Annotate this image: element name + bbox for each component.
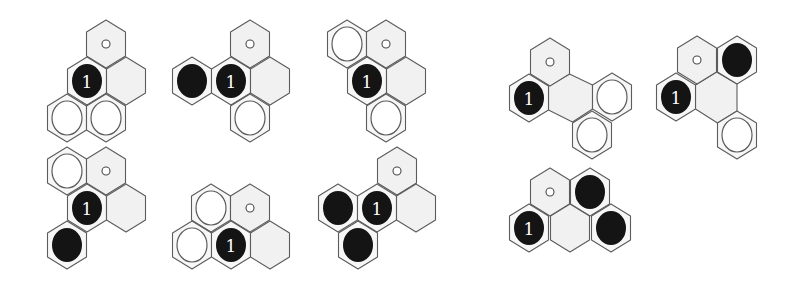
hex-pattern-figure: 111111111 — [0, 0, 801, 284]
stone-number-label: 1 — [362, 72, 373, 92]
black-stone-icon — [596, 211, 626, 245]
stone-number-label: 1 — [226, 72, 237, 92]
stone-number-label: 1 — [372, 199, 383, 219]
diagram-pattern-2: 1 — [173, 20, 290, 142]
white-stone-icon — [52, 154, 82, 188]
white-stone-icon — [91, 101, 121, 135]
marker-dot-icon — [246, 204, 254, 212]
marker-dot-icon — [382, 40, 390, 48]
black-stone-icon — [177, 64, 207, 98]
white-stone-icon — [371, 101, 401, 135]
diagram-pattern-1: 1 — [48, 20, 146, 142]
black-stone-icon — [52, 228, 82, 262]
marker-dot-icon — [102, 40, 110, 48]
stone-number-label: 1 — [671, 88, 682, 108]
white-stone-icon — [722, 118, 752, 152]
marker-dot-icon — [246, 40, 254, 48]
white-stone-icon — [332, 27, 362, 61]
stone-number-label: 1 — [82, 72, 93, 92]
white-stone-icon — [52, 101, 82, 135]
marker-dot-icon — [693, 56, 701, 64]
stone-number-label: 1 — [82, 199, 93, 219]
diagram-pattern-6: 1 — [319, 147, 436, 269]
black-stone-icon — [343, 228, 373, 262]
white-stone-icon — [196, 191, 226, 225]
black-stone-icon — [323, 191, 353, 225]
black-stone-icon — [722, 43, 752, 77]
diagram-pattern-8: 1 — [657, 36, 757, 159]
white-stone-icon — [235, 101, 265, 135]
diagram-pattern-3: 1 — [328, 20, 426, 142]
black-stone-icon — [575, 175, 605, 209]
marker-dot-icon — [546, 188, 554, 196]
white-stone-icon — [597, 80, 627, 114]
diagram-pattern-4: 1 — [48, 147, 146, 269]
stone-number-label: 1 — [226, 236, 237, 256]
diagram-pattern-5: 1 — [173, 184, 290, 269]
white-stone-icon — [177, 228, 207, 262]
marker-dot-icon — [393, 167, 401, 175]
diagram-pattern-7: 1 — [510, 38, 632, 159]
stone-number-label: 1 — [524, 219, 535, 239]
white-stone-icon — [577, 118, 607, 152]
stone-number-label: 1 — [524, 89, 535, 109]
marker-dot-icon — [102, 167, 110, 175]
marker-dot-icon — [546, 58, 554, 66]
diagram-pattern-9: 1 — [510, 168, 631, 252]
